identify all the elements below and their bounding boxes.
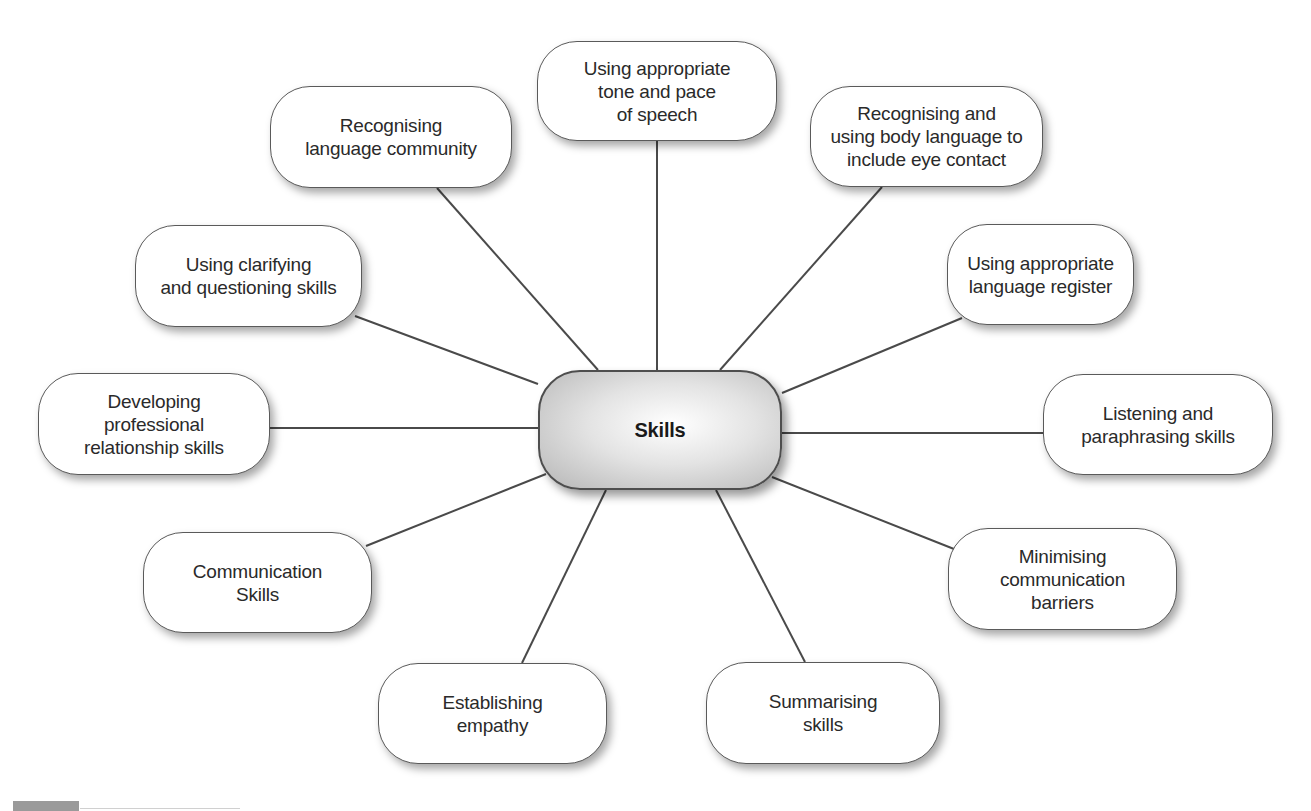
node-listening-paraphrasing: Listening and paraphrasing skills (1043, 374, 1273, 475)
edge-empathy (522, 490, 606, 663)
edge-body-language (720, 187, 882, 370)
node-language-register: Using appropriate language register (947, 224, 1134, 325)
node-summarising: Summarising skills (706, 662, 940, 764)
edge-language-register (782, 318, 962, 393)
node-language-community: Recognising language community (270, 86, 512, 188)
center-node-skills: Skills (538, 370, 782, 490)
node-tone-pace: Using appropriate tone and pace of speec… (537, 41, 777, 141)
node-communication-barriers: Minimising communication barriers (948, 528, 1177, 630)
node-communication-skills: Communication Skills (143, 532, 372, 633)
node-professional-relationship: Developing professional relationship ski… (38, 373, 270, 475)
edge-communication-barriers (772, 477, 954, 549)
edge-communication-skills (366, 474, 546, 546)
edge-language-community (437, 188, 598, 370)
node-clarifying-questioning: Using clarifying and questioning skills (135, 225, 362, 327)
edge-clarifying-questioning (355, 316, 538, 384)
footer-bar-decoration (13, 801, 79, 811)
edge-summarising (716, 490, 805, 662)
node-empathy: Establishing empathy (378, 663, 607, 764)
node-body-language: Recognising and using body language to i… (810, 86, 1043, 187)
footer-rule-decoration (80, 808, 240, 809)
skills-mind-map: Skills Using appropriate tone and pace o… (0, 0, 1311, 811)
